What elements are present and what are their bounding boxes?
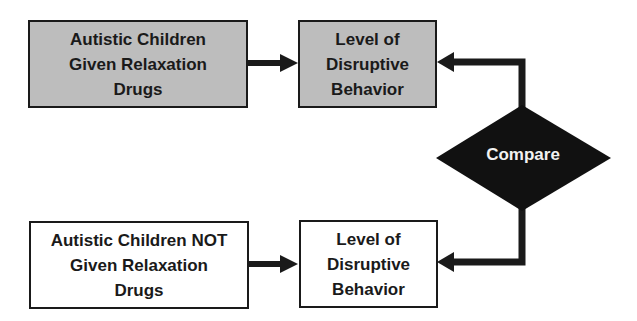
control-outcome-label: Level of Disruptive Behavior [327, 227, 410, 302]
treatment-outcome-node: Level of Disruptive Behavior [298, 20, 437, 108]
treatment-outcome-label: Level of Disruptive Behavior [326, 27, 409, 102]
arrow-treatment-group-to-outcome [247, 54, 298, 72]
arrow-compare-to-treatment-outcome [437, 52, 522, 110]
arrow-control-group-to-outcome [248, 255, 298, 273]
compare-label: Compare [455, 145, 591, 165]
arrow-compare-to-control-outcome [437, 205, 522, 272]
control-outcome-node: Level of Disruptive Behavior [299, 220, 438, 308]
control-group-node: Autistic Children NOT Given Relaxation D… [29, 221, 249, 309]
treatment-group-label: Autistic Children Given Relaxation Drugs [69, 27, 207, 102]
control-group-label: Autistic Children NOT Given Relaxation D… [51, 228, 228, 303]
treatment-group-node: Autistic Children Given Relaxation Drugs [28, 20, 248, 108]
